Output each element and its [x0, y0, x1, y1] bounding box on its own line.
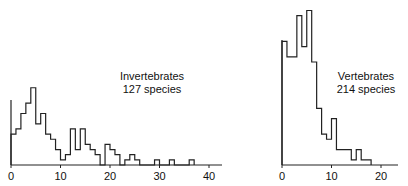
- x-tick-label: 40: [203, 170, 215, 182]
- x-tick-label: 10: [325, 170, 337, 182]
- histogram-bar: [302, 47, 307, 165]
- histogram-bar: [189, 160, 194, 165]
- histogram-bar: [130, 155, 135, 165]
- histogram-bar: [312, 62, 317, 165]
- histogram-bar: [105, 144, 110, 165]
- histogram-bar: [26, 103, 31, 165]
- histogram-bar: [51, 139, 56, 165]
- histogram-bar: [307, 11, 312, 166]
- species-annotation: 214 species: [337, 83, 396, 95]
- histogram-bar: [366, 160, 371, 165]
- histogram-bar: [95, 155, 100, 165]
- histogram-bar: [80, 129, 85, 165]
- histogram-bar: [90, 150, 95, 165]
- species-annotation: Invertebrates: [120, 70, 185, 82]
- histogram-bar: [346, 150, 351, 165]
- histogram-bar: [341, 150, 346, 165]
- histogram-bar: [16, 129, 21, 165]
- x-tick-label: 0: [8, 170, 14, 182]
- histogram-bar: [155, 160, 160, 165]
- histogram-bar: [61, 160, 66, 165]
- histogram-bar: [336, 150, 341, 165]
- x-tick-label: 20: [104, 170, 116, 182]
- histogram-bar: [36, 124, 41, 165]
- x-tick-label: 20: [375, 170, 387, 182]
- histogram-bar: [85, 144, 90, 165]
- x-tick-label: 30: [153, 170, 165, 182]
- histogram-bar: [282, 41, 287, 165]
- histogram-bar: [21, 114, 26, 166]
- histogram-bar: [46, 134, 51, 165]
- invertebrates-panel: 010203040Invertebrates127 species: [8, 70, 222, 182]
- histogram-bar: [125, 160, 130, 165]
- histogram-bar: [110, 150, 115, 165]
- x-tick-label: 0: [279, 170, 285, 182]
- histogram-bar: [332, 119, 337, 165]
- species-annotation: 127 species: [123, 83, 182, 95]
- histogram-bar: [75, 150, 80, 165]
- histogram-bar: [292, 57, 297, 165]
- species-annotation: Vertebrates: [338, 70, 395, 82]
- histogram-bar: [317, 108, 322, 165]
- histogram-bar: [351, 160, 356, 165]
- histogram-bar: [356, 150, 361, 165]
- histogram-bar: [70, 129, 75, 165]
- histogram-bar: [11, 134, 16, 165]
- histogram-bar: [65, 155, 70, 165]
- histogram-bar: [169, 160, 174, 165]
- histogram-bar: [287, 57, 292, 165]
- histogram-bar: [115, 155, 120, 165]
- histogram-figure: 010203040Invertebrates127 species 01020V…: [0, 0, 408, 186]
- histogram-bar: [31, 88, 36, 165]
- histogram-bar: [361, 160, 366, 165]
- histogram-bar: [297, 16, 302, 165]
- x-tick-label: 10: [54, 170, 66, 182]
- histogram-bar: [56, 150, 61, 165]
- histogram-bar: [135, 160, 140, 165]
- histogram-bar: [327, 139, 332, 165]
- histogram-bar: [322, 134, 327, 165]
- vertebrates-panel: 01020Vertebrates214 species: [279, 11, 398, 183]
- histogram-bar: [41, 114, 46, 166]
